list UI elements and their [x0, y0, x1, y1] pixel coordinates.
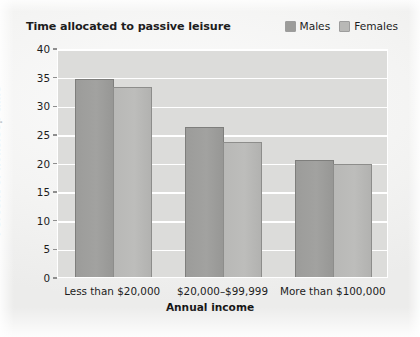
y-tick-label: 35 — [37, 72, 50, 84]
legend-label-females: Females — [354, 20, 398, 32]
y-tick-label: 30 — [37, 100, 50, 112]
bar-females-2 — [333, 164, 372, 279]
bar-group — [73, 79, 153, 278]
bar-females-1 — [223, 142, 262, 278]
x-tick-label: $20,000–$99,999 — [177, 285, 268, 297]
plot-area — [57, 49, 388, 278]
legend-swatch-icon — [285, 21, 296, 32]
x-axis-line — [58, 277, 387, 278]
y-tick-mark — [53, 191, 57, 192]
y-tick-mark — [53, 163, 57, 164]
y-tick-label: 10 — [37, 215, 50, 227]
y-tick-mark — [53, 249, 57, 250]
legend: Males Females — [285, 20, 398, 32]
bar-males-2 — [295, 160, 334, 278]
x-tick-label: Less than $20,000 — [64, 285, 160, 297]
bar-females-0 — [113, 87, 152, 278]
bar-group — [294, 160, 374, 278]
y-tick-mark — [53, 106, 57, 107]
y-tick-mark — [53, 77, 57, 78]
x-axis-title: Annual income — [0, 301, 420, 313]
bar-males-0 — [75, 79, 114, 278]
y-tick-mark — [53, 48, 57, 49]
y-tick-label: 0 — [43, 272, 50, 284]
legend-label-males: Males — [300, 20, 331, 32]
y-tick-label: 40 — [37, 43, 50, 55]
x-tick-label: More than $100,000 — [280, 285, 386, 297]
y-axis-title: Percent of nonsleep time — [0, 61, 2, 261]
legend-item-males: Males — [285, 20, 331, 32]
figure-page: Time allocated to passive leisure Males … — [0, 0, 420, 337]
y-tick-label: 25 — [37, 129, 50, 141]
y-tick-mark — [53, 220, 57, 221]
chart-title: Time allocated to passive leisure — [26, 20, 231, 33]
legend-swatch-icon — [339, 21, 350, 32]
y-tick-label: 20 — [37, 158, 50, 170]
y-tick-label: 5 — [43, 243, 50, 255]
gridline — [58, 49, 387, 51]
bar-males-1 — [185, 127, 224, 278]
y-tick-label: 15 — [37, 186, 50, 198]
y-tick-mark — [53, 134, 57, 135]
bar-group — [184, 127, 264, 278]
y-tick-mark — [53, 277, 57, 278]
legend-item-females: Females — [339, 20, 398, 32]
plot-wrapper: 0510152025303540 — [57, 49, 388, 278]
